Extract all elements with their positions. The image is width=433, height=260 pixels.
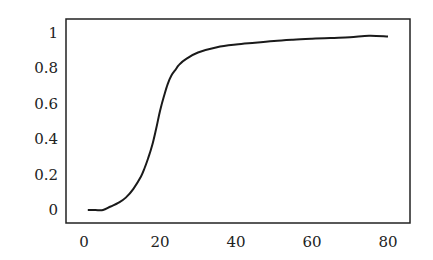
y-tick-label: 0.8 <box>34 59 58 77</box>
x-axis-ticks: 020406080 <box>79 233 397 251</box>
x-tick-label: 60 <box>302 233 321 251</box>
x-tick-label: 80 <box>378 233 397 251</box>
line-chart: 00.20.40.60.81 020406080 <box>0 0 433 260</box>
data-line <box>88 36 388 211</box>
x-tick-label: 20 <box>150 233 169 251</box>
x-tick-label: 0 <box>79 233 89 251</box>
plot-frame <box>66 19 410 223</box>
y-axis-ticks: 00.20.40.60.81 <box>34 24 58 219</box>
y-tick-label: 0.6 <box>34 95 58 113</box>
y-tick-label: 0 <box>48 201 58 219</box>
x-tick-label: 40 <box>226 233 245 251</box>
y-tick-label: 0.4 <box>34 130 58 148</box>
y-tick-label: 1 <box>48 24 58 42</box>
y-tick-label: 0.2 <box>34 166 58 184</box>
